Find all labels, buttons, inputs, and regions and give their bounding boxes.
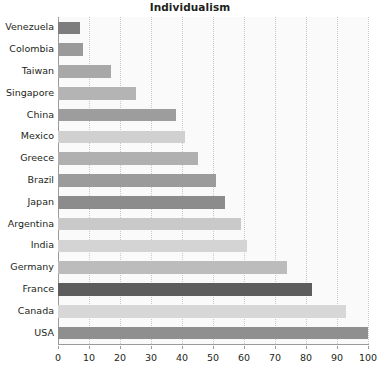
x-tick-label-20: 20: [114, 352, 126, 363]
y-tick-label-greece: Greece: [0, 152, 54, 163]
x-tick-mark-80: [306, 346, 307, 349]
bar-row: [58, 152, 368, 165]
x-tick-label-30: 30: [145, 352, 157, 363]
x-tick-label-90: 90: [331, 352, 343, 363]
bar-row: [58, 65, 368, 78]
x-tick-mark-10: [89, 346, 90, 349]
y-tick-label-usa: USA: [0, 327, 54, 338]
bar-brazil: [58, 174, 216, 187]
bar-row: [58, 43, 368, 56]
bar-row: [58, 218, 368, 231]
bar-argentina: [58, 218, 241, 231]
chart-title: Individualism: [0, 1, 380, 13]
x-tick-label-80: 80: [300, 352, 312, 363]
x-axis-spine: [58, 344, 369, 345]
bar-row: [58, 87, 368, 100]
x-tick-label-70: 70: [269, 352, 281, 363]
x-tick-mark-70: [275, 346, 276, 349]
x-tick-label-10: 10: [83, 352, 95, 363]
y-tick-label-india: India: [0, 239, 54, 250]
bar-colombia: [58, 43, 83, 56]
y-tick-label-singapore: Singapore: [0, 87, 54, 98]
y-tick-label-colombia: Colombia: [0, 43, 54, 54]
individualism-bar-chart: Individualism VenezuelaColombiaTaiwanSin…: [0, 0, 380, 376]
bar-row: [58, 261, 368, 274]
bar-greece: [58, 152, 198, 165]
bar-india: [58, 240, 247, 253]
x-tick-mark-40: [182, 346, 183, 349]
bar-row: [58, 22, 368, 35]
bar-mexico: [58, 131, 185, 144]
bar-row: [58, 109, 368, 122]
y-tick-label-brazil: Brazil: [0, 174, 54, 185]
bar-france: [58, 283, 312, 296]
gridline-100: [368, 17, 370, 344]
y-tick-label-argentina: Argentina: [0, 218, 54, 229]
bar-singapore: [58, 87, 136, 100]
y-tick-label-china: China: [0, 109, 54, 120]
x-tick-label-40: 40: [176, 352, 188, 363]
x-tick-label-60: 60: [238, 352, 250, 363]
bar-row: [58, 196, 368, 209]
x-tick-label-100: 100: [359, 352, 377, 363]
y-tick-label-taiwan: Taiwan: [0, 65, 54, 76]
bar-china: [58, 109, 176, 122]
y-tick-label-france: France: [0, 283, 54, 294]
y-tick-label-canada: Canada: [0, 305, 54, 316]
x-tick-label-50: 50: [207, 352, 219, 363]
x-tick-label-0: 0: [55, 352, 61, 363]
x-tick-mark-20: [120, 346, 121, 349]
bar-row: [58, 240, 368, 253]
y-tick-label-venezuela: Venezuela: [0, 21, 54, 32]
x-tick-mark-50: [213, 346, 214, 349]
bar-row: [58, 327, 368, 340]
bar-usa: [58, 327, 368, 340]
y-tick-label-germany: Germany: [0, 261, 54, 272]
bar-japan: [58, 196, 225, 209]
bar-row: [58, 283, 368, 296]
x-tick-mark-60: [244, 346, 245, 349]
y-tick-label-japan: Japan: [0, 196, 54, 207]
x-tick-mark-30: [151, 346, 152, 349]
bar-row: [58, 174, 368, 187]
x-tick-mark-100: [368, 346, 369, 349]
bar-germany: [58, 261, 287, 274]
bar-canada: [58, 305, 346, 318]
bars-layer: [58, 17, 368, 344]
bar-row: [58, 305, 368, 318]
bar-venezuela: [58, 22, 80, 35]
y-axis-tick-labels: VenezuelaColombiaTaiwanSingaporeChinaMex…: [0, 17, 54, 344]
x-tick-mark-90: [337, 346, 338, 349]
bar-taiwan: [58, 65, 111, 78]
x-tick-mark-0: [58, 346, 59, 349]
y-tick-label-mexico: Mexico: [0, 130, 54, 141]
bar-row: [58, 131, 368, 144]
x-axis-tick-labels: 0102030405060708090100: [0, 346, 380, 368]
